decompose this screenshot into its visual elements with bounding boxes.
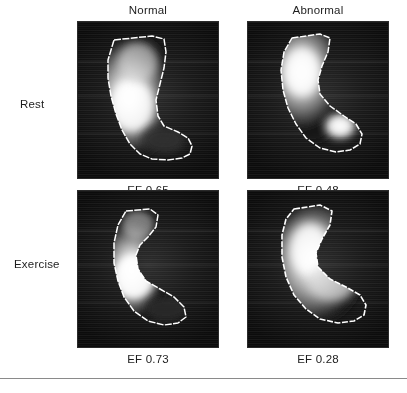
ventriculogram-image-rest-normal	[78, 22, 218, 178]
ventriculogram-image-exercise-abnormal	[248, 191, 388, 347]
ventriculogram-image-exercise-normal	[78, 191, 218, 347]
column-header-abnormal: Abnormal	[248, 4, 388, 16]
row-label-exercise: Exercise	[14, 258, 60, 270]
row-label-rest: Rest	[20, 98, 44, 110]
bottom-divider	[0, 378, 407, 379]
ef-caption-exercise-abnormal: EF 0.28	[248, 353, 388, 365]
figure-root: Normal Abnormal Rest Exercise	[0, 0, 407, 393]
column-header-normal: Normal	[78, 4, 218, 16]
ventriculogram-image-rest-abnormal	[248, 22, 388, 178]
ef-caption-exercise-normal: EF 0.73	[78, 353, 218, 365]
panel-rest-normal[interactable]	[78, 22, 218, 178]
panel-exercise-normal[interactable]	[78, 191, 218, 347]
panel-rest-abnormal[interactable]	[248, 22, 388, 178]
panel-exercise-abnormal[interactable]	[248, 191, 388, 347]
